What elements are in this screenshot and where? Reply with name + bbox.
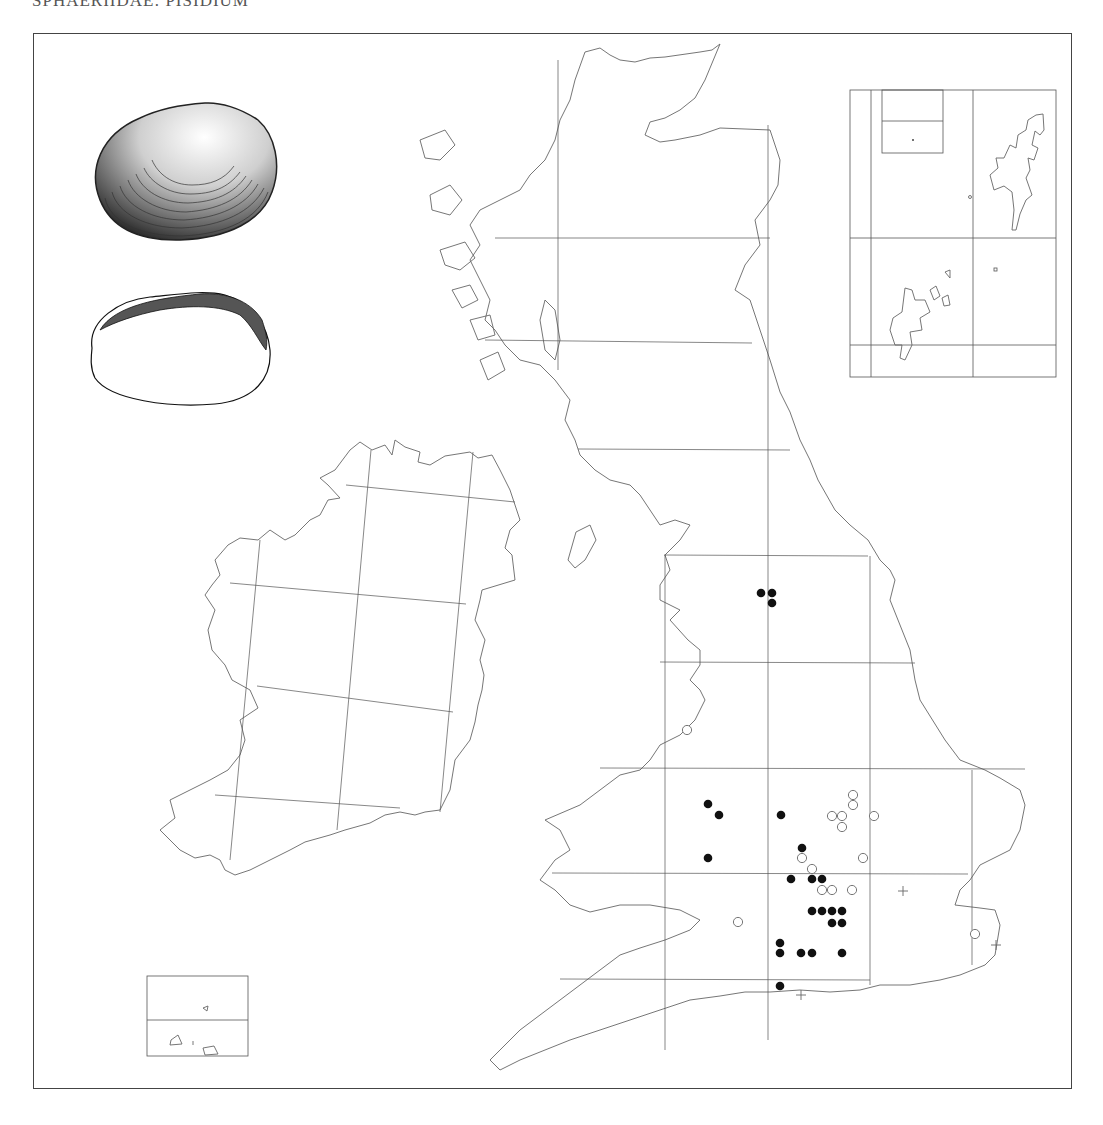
- record-points: [682, 589, 1001, 1000]
- filled-dot-marker: [808, 875, 817, 884]
- filled-dot-marker: [797, 949, 806, 958]
- filled-dot-marker: [715, 811, 724, 820]
- filled-dot-marker: [838, 919, 847, 928]
- open-dot-marker: [848, 790, 857, 799]
- filled-dot-marker: [828, 919, 837, 928]
- open-dot-marker: [848, 800, 857, 809]
- filled-dot-marker: [768, 589, 777, 598]
- cross-marker: [991, 940, 1001, 950]
- open-dot-marker: [827, 885, 836, 894]
- ireland-outline: [160, 440, 520, 875]
- distribution-map: [0, 0, 1103, 1125]
- shell-exterior-icon: [96, 103, 277, 240]
- open-dot-marker: [858, 853, 867, 862]
- open-dot-marker: [970, 929, 979, 938]
- open-dot-marker: [797, 853, 806, 862]
- open-dot-marker: [733, 917, 742, 926]
- filled-dot-marker: [838, 949, 847, 958]
- channel-islands-inset: [147, 976, 248, 1056]
- filled-dot-marker: [768, 599, 777, 608]
- filled-dot-marker: [808, 949, 817, 958]
- filled-dot-marker: [787, 875, 796, 884]
- open-dot-marker: [817, 885, 826, 894]
- filled-dot-marker: [838, 907, 847, 916]
- filled-dot-marker: [776, 982, 785, 991]
- filled-dot-marker: [777, 811, 786, 820]
- shetland-orkney-inset: [850, 90, 1056, 377]
- cross-marker: [898, 886, 908, 896]
- filled-dot-marker: [776, 949, 785, 958]
- open-dot-marker: [837, 822, 846, 831]
- arran: [540, 300, 560, 360]
- filled-dot-marker: [818, 907, 827, 916]
- shell-interior-icon: [91, 293, 270, 405]
- filled-dot-marker: [828, 907, 837, 916]
- open-dot-marker: [869, 811, 878, 820]
- great-britain-outline: [420, 44, 1025, 1070]
- filled-dot-marker: [808, 907, 817, 916]
- open-dot-marker: [847, 885, 856, 894]
- cross-marker: [796, 990, 806, 1000]
- open-dot-marker: [837, 811, 846, 820]
- filled-dot-marker: [818, 875, 827, 884]
- open-dot-marker: [682, 725, 691, 734]
- filled-dot-marker: [798, 844, 807, 853]
- open-dot-marker: [827, 811, 836, 820]
- filled-dot-marker: [704, 854, 713, 863]
- isle-of-man: [568, 525, 596, 568]
- open-dot-marker: [807, 864, 816, 873]
- filled-dot-marker: [704, 800, 713, 809]
- filled-dot-marker: [757, 589, 766, 598]
- filled-dot-marker: [776, 939, 785, 948]
